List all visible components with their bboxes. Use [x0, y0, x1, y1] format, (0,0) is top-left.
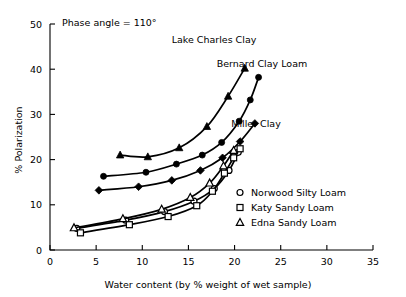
- curve-label: Bernard Clay Loam: [217, 58, 307, 69]
- y-tick-label: 20: [30, 154, 42, 165]
- y-tick-label: 30: [30, 109, 42, 120]
- y-tick-label: 40: [30, 64, 42, 75]
- legend-label: Katy Sandy Loam: [251, 202, 334, 213]
- chart-title: Phase angle = 110°: [62, 17, 157, 28]
- y-tick-label: 0: [36, 245, 42, 256]
- data-point-filled-diamond: [135, 183, 143, 191]
- x-tick-label: 5: [93, 256, 99, 267]
- x-tick-label: 35: [367, 256, 379, 267]
- legend-item: Katy Sandy Loam: [237, 202, 334, 213]
- legend-label: Norwood Silty Loam: [251, 187, 346, 198]
- data-point-open-square: [231, 155, 237, 161]
- data-point-filled-diamond: [95, 187, 103, 195]
- data-point-filled-diamond: [197, 167, 205, 175]
- data-point-open-square: [77, 230, 83, 236]
- series-line: [120, 68, 245, 157]
- data-point-filled-circle: [173, 161, 179, 167]
- legend-item: Norwood Silty Loam: [237, 187, 346, 198]
- x-axis-label: Water content (by % weight of wet sample…: [105, 279, 312, 290]
- data-point-filled-circle: [256, 74, 262, 80]
- data-point-filled-diamond: [168, 177, 176, 185]
- data-point-open-square: [165, 214, 171, 220]
- legend-item: Edna Sandy Loam: [236, 217, 336, 228]
- data-point-open-square: [209, 188, 215, 194]
- x-tick-label: 30: [321, 256, 333, 267]
- chart-series: [116, 64, 248, 159]
- chart-curve-labels: Lake Charles ClayBernard Clay LoamMiller…: [172, 34, 308, 129]
- x-tick-label: 15: [182, 256, 194, 267]
- legend-marker-open-circle: [237, 190, 243, 196]
- data-point-open-square: [194, 203, 200, 209]
- legend-label: Edna Sandy Loam: [251, 217, 336, 228]
- data-point-open-square: [237, 146, 243, 152]
- chart-figure: 05101520253035 01020304050 Phase angle =…: [0, 0, 406, 297]
- legend-marker-open-triangle: [236, 219, 243, 226]
- data-point-open-square: [221, 170, 227, 176]
- x-tick-label: 0: [47, 256, 53, 267]
- legend-marker-open-square: [237, 205, 243, 211]
- chart-y-tick-labels: 01020304050: [30, 19, 42, 256]
- x-tick-label: 20: [229, 256, 241, 267]
- data-point-filled-circle: [199, 152, 205, 158]
- y-tick-label: 10: [30, 199, 42, 210]
- data-point-filled-circle: [247, 97, 253, 103]
- x-tick-label: 10: [136, 256, 148, 267]
- chart-series-group: [70, 64, 261, 236]
- y-tick-label: 50: [30, 19, 42, 30]
- x-tick-label: 25: [275, 256, 287, 267]
- curve-label: Miller Clay: [231, 118, 281, 129]
- chart-plot-area: 05101520253035 01020304050 Phase angle =…: [0, 0, 406, 297]
- data-point-filled-circle: [101, 173, 107, 179]
- data-point-filled-circle: [219, 139, 225, 145]
- curve-label: Lake Charles Clay: [172, 34, 257, 45]
- data-point-filled-circle: [143, 169, 149, 175]
- chart-x-tick-labels: 05101520253035: [47, 256, 379, 267]
- data-point-open-square: [126, 222, 132, 228]
- chart-legend: Norwood Silty LoamKaty Sandy LoamEdna Sa…: [236, 187, 346, 228]
- y-axis-label: % Polarization: [13, 106, 24, 173]
